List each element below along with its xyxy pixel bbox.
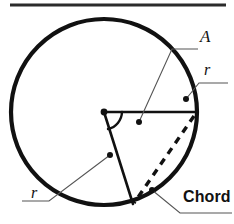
angle-label: A (200, 28, 210, 45)
leader-dot-chord (149, 187, 155, 193)
center-point-dot (101, 109, 108, 116)
leader-dot-radius-bottom (107, 152, 113, 158)
radius-label-top: r (204, 62, 210, 78)
leader-dot-radius-top (183, 96, 189, 102)
chord-label: Chord (183, 189, 231, 205)
radius-label-bottom: r (31, 185, 37, 201)
leader-dot-angle (136, 119, 142, 125)
central-angle-arc (108, 112, 122, 129)
lower-radius-line (104, 112, 133, 204)
circle-geometry-figure: A r r Chord (0, 0, 234, 224)
